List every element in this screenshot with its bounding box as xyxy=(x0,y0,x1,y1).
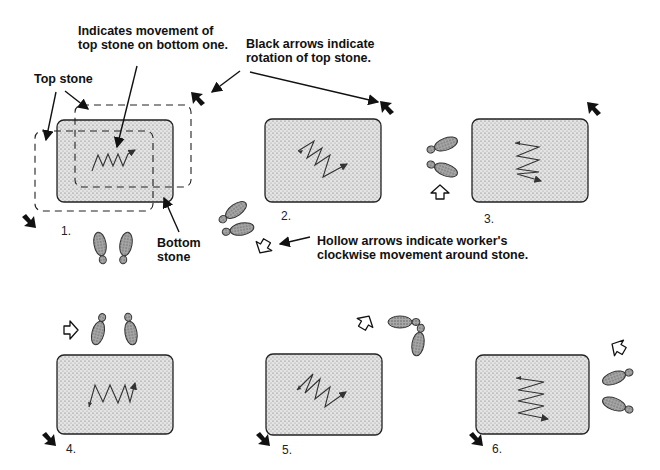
step-number-4: 4. xyxy=(66,442,76,456)
step-number-2: 2. xyxy=(281,209,291,223)
worker-movement-arrow-icon xyxy=(354,312,377,333)
worker-movement-arrow-icon xyxy=(252,236,275,257)
footprint-icon xyxy=(410,323,427,357)
footprint-icon xyxy=(425,158,459,180)
step-4 xyxy=(42,312,173,446)
stone xyxy=(472,119,588,202)
footprint-icon xyxy=(117,231,134,265)
worker-movement-arrow-icon xyxy=(608,336,629,359)
label-black-arrows: Black arrows indicate rotation of top st… xyxy=(246,37,375,65)
step-number-5: 5. xyxy=(282,443,292,457)
step-number-1: 1. xyxy=(61,224,71,238)
worker-movement-arrow-icon xyxy=(64,321,78,339)
footprint-icon xyxy=(216,198,249,226)
label-hollow-arrows: Hollow arrows indicate worker's clockwis… xyxy=(317,234,528,262)
footprint-icon xyxy=(122,312,139,346)
step-number-3: 3. xyxy=(484,212,494,226)
rotation-arrow-icon xyxy=(256,432,270,446)
step-6 xyxy=(469,336,635,446)
footprint-icon xyxy=(388,316,420,328)
label-top-stone: Top stone xyxy=(34,72,93,86)
step-3 xyxy=(425,102,601,202)
rotation-arrow-icon xyxy=(380,101,394,115)
label-movement: Indicates movement of top stone on botto… xyxy=(78,24,228,52)
footprint-icon xyxy=(89,312,109,346)
stone xyxy=(476,355,589,434)
rotation-arrow-icon xyxy=(191,92,205,106)
label-bottom-stone: Bottom stone xyxy=(157,236,201,264)
footprint-icon xyxy=(92,231,109,265)
rotation-arrow-icon xyxy=(587,102,601,116)
footprint-icon xyxy=(425,134,459,156)
rotation-arrow-icon xyxy=(22,214,36,228)
stone xyxy=(266,354,382,435)
footprint-icon xyxy=(601,366,635,388)
step-5 xyxy=(256,312,427,446)
footprint-icon xyxy=(221,221,255,238)
rotation-arrow-icon xyxy=(42,432,56,446)
footprint-icon xyxy=(601,394,635,416)
stone xyxy=(57,355,173,434)
stone xyxy=(265,119,381,202)
worker-movement-arrow-icon xyxy=(431,185,449,199)
step-number-6: 6. xyxy=(492,442,502,456)
